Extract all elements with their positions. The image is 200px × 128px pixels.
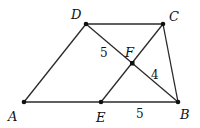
label-d: D [70, 7, 82, 22]
label-b: B [179, 107, 190, 122]
geometry-diagram: D C F A E B 5 4 5 [0, 0, 200, 128]
label-f: F [124, 45, 135, 60]
segment-bc [163, 24, 178, 102]
segment-da [24, 24, 86, 102]
point-a [22, 100, 27, 105]
point-f [130, 61, 135, 66]
point-e [99, 100, 104, 105]
point-c [161, 22, 166, 27]
point-d [84, 22, 89, 27]
label-c: C [169, 9, 179, 24]
point-b [176, 100, 181, 105]
label-a: A [7, 109, 17, 124]
measure-eb: 5 [136, 107, 144, 121]
measure-fb: 4 [151, 68, 159, 82]
measure-df: 5 [100, 46, 108, 60]
label-e: E [95, 110, 106, 125]
